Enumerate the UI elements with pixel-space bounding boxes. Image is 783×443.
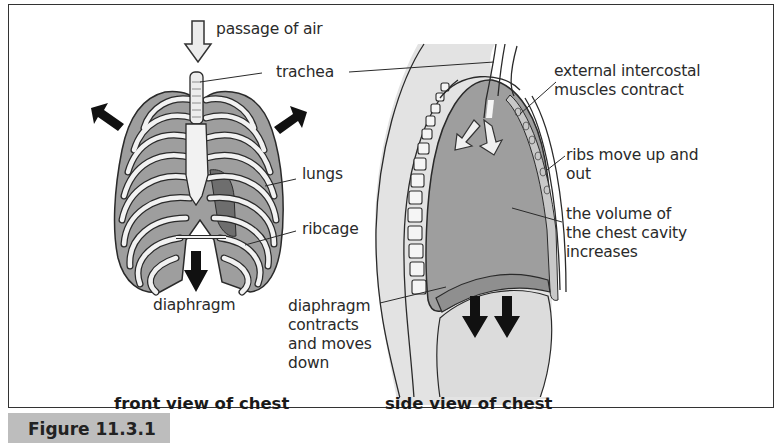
label-passage-of-air: passage of air (216, 20, 323, 39)
label-ribs-move: ribs move up and out (566, 146, 698, 184)
label-diaphragm: diaphragm (153, 296, 235, 315)
label-trachea: trachea (276, 63, 334, 82)
ribcage-expand-left-arrow-icon (91, 103, 124, 131)
label-chest-volume: the volume of the chest cavity increases (566, 205, 687, 262)
caption-front-view: front view of chest (114, 394, 289, 413)
label-lungs: lungs (302, 165, 343, 184)
label-ribcage: ribcage (302, 220, 359, 239)
passage-of-air-arrow-icon (185, 21, 211, 62)
figure-number-tab: Figure 11.3.1 (8, 413, 170, 443)
caption-side-view: side view of chest (385, 394, 553, 413)
ribcage-expand-right-arrow-icon (274, 106, 307, 134)
label-external-intercostal: external intercostal muscles contract (554, 62, 700, 100)
figure-number: Figure 11.3.1 (28, 419, 156, 439)
diaphragm-down-arrow-icon (184, 251, 208, 292)
label-diaphragm-contracts: diaphragm contracts and moves down (288, 297, 372, 373)
